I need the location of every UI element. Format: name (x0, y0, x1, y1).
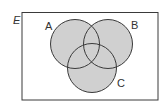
set-c-label: C (117, 77, 125, 89)
set-b-label: B (131, 19, 138, 31)
venn-diagram: E A B C (0, 0, 161, 103)
universal-set-label: E (13, 14, 21, 26)
set-a-label: A (45, 20, 53, 32)
